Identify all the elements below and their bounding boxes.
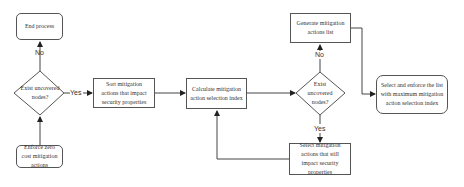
node-enforce-zero-cost-label: Enforce zero cost mitigation actions bbox=[19, 143, 60, 170]
node-sort-actions-label: Sort mitigation actions that impact secu… bbox=[97, 80, 151, 107]
edge-label-left-no: No bbox=[35, 49, 44, 56]
node-end-process-label: End process bbox=[25, 22, 54, 31]
node-generate-list: Generate mitigation actions list bbox=[290, 13, 351, 43]
node-sort-actions: Sort mitigation actions that impact secu… bbox=[93, 78, 155, 108]
node-calculate-index: Calculate mitigation action selection in… bbox=[186, 78, 247, 109]
node-decision-right: Exist uncovered nodes? bbox=[301, 79, 339, 107]
node-decision-left: Exist uncovered nodes? bbox=[20, 79, 60, 107]
node-end-process: End process bbox=[16, 13, 63, 40]
node-calculate-index-label: Calculate mitigation action selection in… bbox=[190, 85, 243, 103]
edge-label-left-yes: Yes bbox=[70, 89, 81, 96]
node-select-enforce-max-label: Select and enforce the list with maximum… bbox=[380, 81, 444, 108]
node-select-still-impact-label: Select mitigation actions that still imp… bbox=[293, 141, 347, 177]
node-select-still-impact: Select mitigation actions that still imp… bbox=[289, 143, 351, 175]
node-select-enforce-max: Select and enforce the list with maximum… bbox=[376, 75, 448, 114]
node-enforce-zero-cost: Enforce zero cost mitigation actions bbox=[16, 145, 63, 168]
edge-label-right-no: No bbox=[315, 51, 324, 58]
decision-right-label: Exist uncovered nodes? bbox=[301, 80, 339, 107]
decision-left-label: Exist uncovered nodes? bbox=[20, 84, 60, 102]
node-generate-list-label: Generate mitigation actions list bbox=[294, 19, 347, 37]
edge-label-right-yes: Yes bbox=[314, 125, 325, 132]
